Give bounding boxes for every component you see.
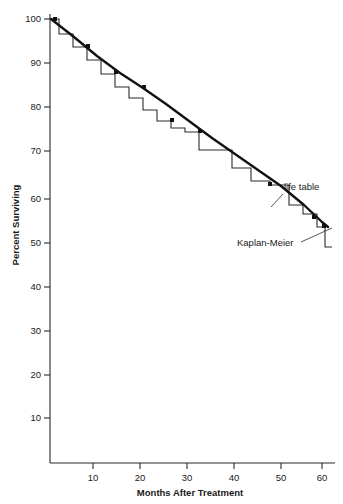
y-tick-label-60: 60 — [30, 193, 41, 204]
y-tick-label-10: 10 — [30, 412, 41, 423]
x-axis-title: Months After Treatment — [137, 487, 244, 498]
annotation-life-table-leader — [271, 194, 283, 207]
y-tick-label-20: 20 — [30, 369, 41, 380]
y-axis-title: Percent Surviving — [10, 184, 21, 265]
x-tick-label-20: 20 — [135, 472, 146, 483]
x-tick-label-50: 50 — [276, 472, 287, 483]
x-tick-labels: 10 20 30 40 50 60 — [88, 472, 328, 483]
x-tick-label-30: 30 — [182, 472, 193, 483]
series-kaplan-meier-smooth — [51, 19, 328, 227]
y-tick-label-40: 40 — [30, 281, 41, 292]
y-tick-labels: 100 90 80 70 60 50 40 30 20 10 — [25, 13, 41, 423]
x-tick-label-40: 40 — [229, 472, 240, 483]
x-tick-label-10: 10 — [88, 472, 99, 483]
y-tick-marks — [44, 19, 50, 418]
y-tick-label-70: 70 — [30, 145, 41, 156]
survival-curve-figure: 100 90 80 70 60 50 40 30 20 10 10 20 30 … — [0, 0, 343, 504]
chart-canvas: 100 90 80 70 60 50 40 30 20 10 10 20 30 … — [0, 0, 343, 504]
annotation-kaplan-meier-label: Kaplan-Meier — [237, 237, 294, 248]
y-tick-label-100: 100 — [25, 13, 41, 24]
annotation-life-table-label: life table — [284, 181, 319, 192]
y-tick-label-80: 80 — [30, 101, 41, 112]
x-tick-marks — [93, 463, 322, 469]
y-tick-label-50: 50 — [30, 237, 41, 248]
y-tick-label-90: 90 — [30, 57, 41, 68]
x-tick-label-60: 60 — [317, 472, 328, 483]
y-tick-label-30: 30 — [30, 325, 41, 336]
annotation-kaplan-meier: Kaplan-Meier — [237, 228, 332, 248]
annotation-kaplan-meier-leader — [301, 228, 332, 242]
